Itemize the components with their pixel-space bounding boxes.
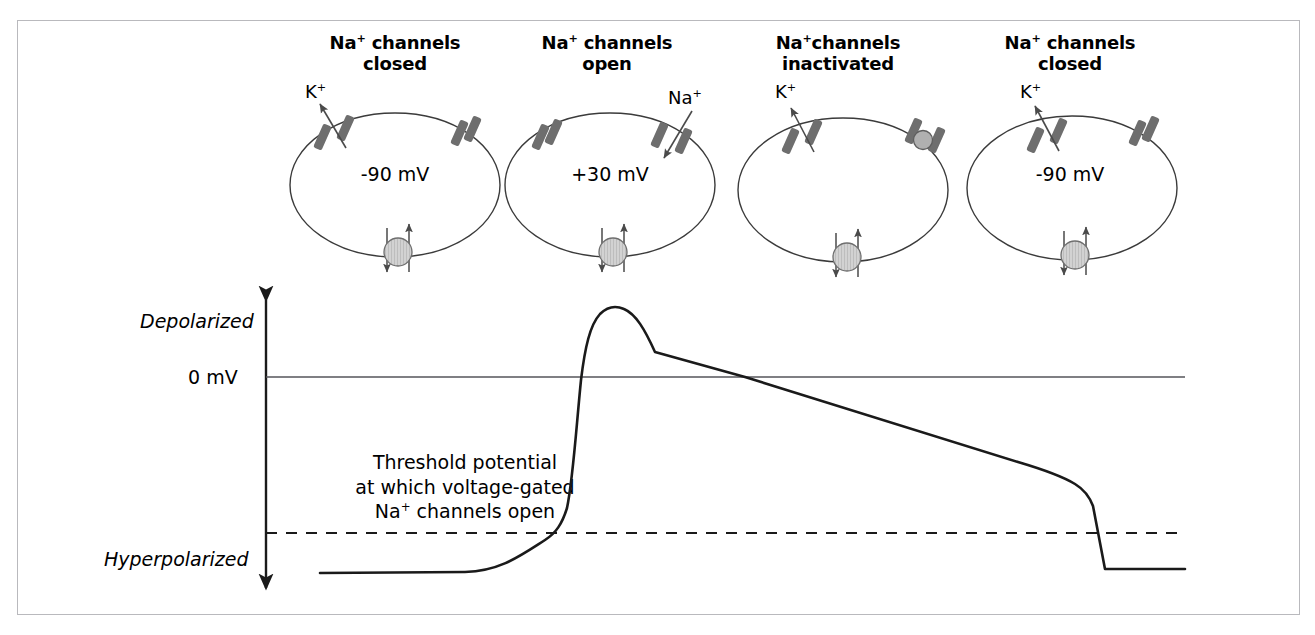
cell-4-k-channel — [1026, 117, 1068, 153]
cell-3-diagram — [738, 108, 948, 277]
cell-4-diagram — [967, 106, 1177, 275]
cell-1-na-channel — [450, 115, 482, 146]
cell-1-sodium-potassium-pump — [384, 224, 412, 272]
cell-1-k-channel — [313, 114, 355, 150]
cell-3-sodium-potassium-pump — [833, 229, 861, 277]
cell-1-diagram — [290, 104, 500, 272]
cell-2-diagram — [505, 111, 715, 272]
action-potential-graph — [266, 300, 1185, 588]
figure-vector-layer — [0, 0, 1315, 635]
cell-4-na-channel — [1128, 115, 1160, 146]
figure-canvas: Na+ channels closed Na+ channels open Na… — [0, 0, 1315, 635]
cell-4-sodium-potassium-pump — [1061, 227, 1089, 275]
cell-2-sodium-potassium-pump — [599, 224, 627, 272]
cell-3-inactivation-ball — [914, 131, 933, 150]
cell-3-na-channel-inactivated — [904, 117, 946, 153]
